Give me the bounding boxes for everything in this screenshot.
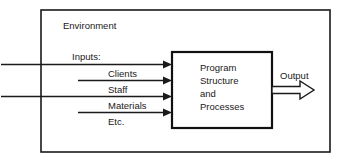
process-line-4: Processes	[200, 101, 245, 112]
diagram-canvas: Environment Inputs: Clients Staff Materi…	[0, 0, 346, 163]
input-flow-label-clients: Clients	[108, 68, 137, 79]
input-flow-label-etc: Etc.	[108, 116, 124, 127]
input-flow-label-materials: Materials	[108, 100, 147, 111]
environment-label: Environment	[63, 20, 117, 31]
input-flow-label-staff: Staff	[108, 84, 128, 95]
inputs-label: Inputs:	[72, 51, 101, 62]
process-line-1: Program	[200, 62, 237, 73]
process-line-2: Structure	[200, 75, 239, 86]
process-line-3: and	[200, 88, 216, 99]
output-arrow	[272, 81, 314, 99]
system-diagram: Environment Inputs: Clients Staff Materi…	[0, 0, 346, 163]
output-label: Output	[280, 70, 309, 81]
